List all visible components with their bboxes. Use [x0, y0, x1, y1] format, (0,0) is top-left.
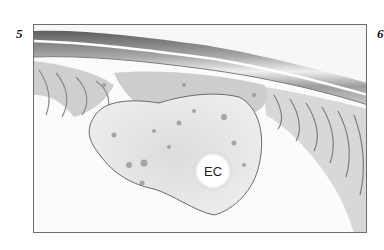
panel-label-6: 6 — [377, 26, 384, 42]
micrograph-image — [34, 25, 367, 233]
panel-label-5: 5 — [16, 26, 23, 42]
ec-annotation: EC — [197, 155, 229, 187]
micrograph-frame: EC — [33, 24, 367, 233]
